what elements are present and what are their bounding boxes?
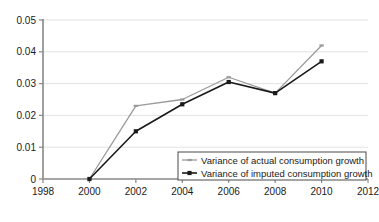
- y-tick-label-0: 0: [30, 174, 36, 185]
- legend-label: Variance of actual consumption growth: [201, 155, 364, 166]
- data-point-marker: [273, 91, 277, 95]
- x-tick-label-2000: 2000: [78, 186, 101, 197]
- variance-line-chart: 00.010.020.030.040.05 199820002002200420…: [0, 0, 379, 222]
- y-tick-label-0.03: 0.03: [17, 78, 37, 89]
- x-tick-label-2002: 2002: [125, 186, 148, 197]
- legend-entry-imputed: Variance of imputed consumption growth: [182, 168, 372, 179]
- y-tick-label-0.04: 0.04: [17, 46, 37, 57]
- data-point-marker: [180, 102, 184, 106]
- x-tick-label-2004: 2004: [171, 186, 194, 197]
- legend-swatch-marker: [188, 159, 192, 161]
- data-point-marker: [87, 177, 91, 181]
- x-tick-label-1998: 1998: [32, 186, 55, 197]
- legend-swatch-marker: [187, 171, 191, 175]
- x-tick-label-2008: 2008: [264, 186, 287, 197]
- x-tick-label-2006: 2006: [218, 186, 241, 197]
- data-point-marker: [180, 98, 184, 100]
- chart-canvas: 00.010.020.030.040.05 199820002002200420…: [0, 0, 379, 222]
- data-point-marker: [227, 80, 231, 84]
- y-tick-label-0.05: 0.05: [17, 15, 37, 26]
- data-point-marker: [134, 129, 138, 133]
- legend-entry-actual: Variance of actual consumption growth: [182, 155, 364, 166]
- data-point-marker: [319, 59, 323, 63]
- chart-legend: Variance of actual consumption growthVar…: [178, 152, 372, 180]
- data-point-marker: [227, 76, 231, 78]
- data-point-marker: [134, 105, 138, 107]
- data-point-marker: [319, 44, 323, 46]
- y-tick-label-0.01: 0.01: [17, 142, 37, 153]
- x-tick-label-2010: 2010: [310, 186, 333, 197]
- x-tick-label-2012: 2012: [357, 186, 379, 197]
- y-tick-label-0.02: 0.02: [17, 110, 37, 121]
- legend-label: Variance of imputed consumption growth: [201, 168, 372, 179]
